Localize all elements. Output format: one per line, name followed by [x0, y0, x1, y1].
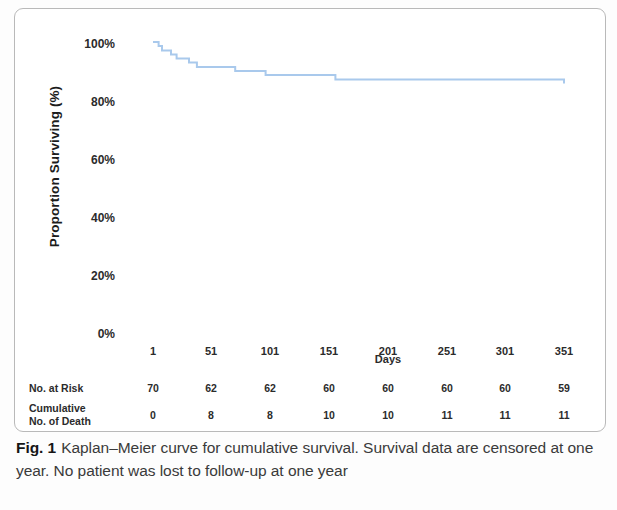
- risk-cell-at-risk-101: 62: [250, 382, 290, 394]
- risk-cell-deaths-151: 10: [309, 409, 349, 421]
- y-tick-label-0: 0%: [69, 327, 115, 341]
- y-tick-label-40: 40%: [69, 211, 115, 225]
- x-tick-label-351: 351: [544, 345, 584, 357]
- risk-cell-at-risk-351: 59: [544, 382, 584, 394]
- risk-cell-deaths-251: 11: [427, 409, 467, 421]
- figure-caption: Fig. 1Kaplan–Meier curve for cumulative …: [16, 436, 604, 482]
- risk-cell-at-risk-151: 60: [309, 382, 349, 394]
- risk-cell-at-risk-251: 60: [427, 382, 467, 394]
- y-tick-label-20: 20%: [69, 269, 115, 283]
- x-tick-label-251: 251: [427, 345, 467, 357]
- risk-cell-deaths-101: 8: [250, 409, 290, 421]
- figure-page: Proportion Surviving (%) 100% 80% 60% 40…: [0, 0, 617, 510]
- x-tick-label-1: 1: [133, 345, 173, 357]
- risk-cell-at-risk-301: 60: [485, 382, 525, 394]
- risk-cell-deaths-201: 10: [368, 409, 408, 421]
- kaplan-meier-plot: Proportion Surviving (%) 100% 80% 60% 40…: [15, 9, 607, 433]
- risk-row-label-cumulative-deaths: CumulativeNo. of Death: [29, 402, 133, 428]
- risk-cell-at-risk-201: 60: [368, 382, 408, 394]
- y-axis-title: Proportion Surviving (%): [47, 72, 62, 262]
- x-tick-label-301: 301: [485, 345, 525, 357]
- figure-caption-title: Kaplan–Meier curve for cumulative surviv…: [61, 439, 359, 456]
- risk-cell-at-risk-51: 62: [191, 382, 231, 394]
- risk-row-label-at-risk: No. at Risk: [29, 382, 133, 395]
- y-tick-label-100: 100%: [69, 37, 115, 51]
- risk-cell-at-risk-1: 70: [133, 382, 173, 394]
- risk-cell-deaths-301: 11: [485, 409, 525, 421]
- risk-cell-deaths-51: 8: [191, 409, 231, 421]
- figure-caption-label: Fig. 1: [16, 439, 56, 456]
- x-tick-label-51: 51: [191, 345, 231, 357]
- y-tick-label-60: 60%: [69, 153, 115, 167]
- risk-cell-deaths-351: 11: [544, 409, 584, 421]
- y-tick-label-80: 80%: [69, 95, 115, 109]
- survival-curve-line: [153, 42, 564, 84]
- x-axis-title: Days: [343, 353, 433, 365]
- x-tick-label-101: 101: [250, 345, 290, 357]
- figure-frame: Proportion Surviving (%) 100% 80% 60% 40…: [14, 8, 606, 432]
- risk-cell-deaths-1: 0: [133, 409, 173, 421]
